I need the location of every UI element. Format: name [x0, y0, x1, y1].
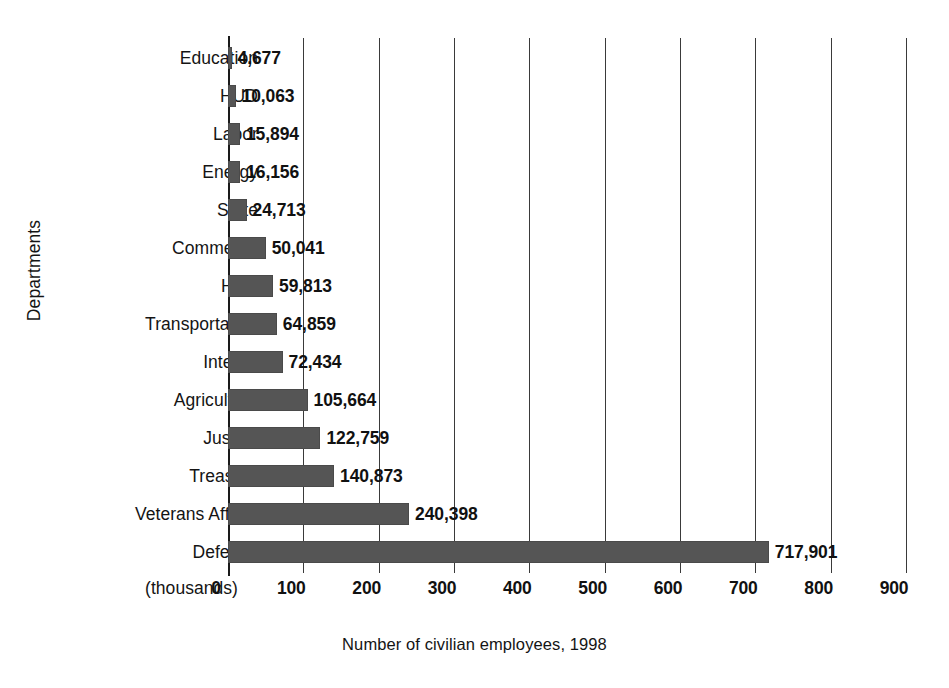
- bar-row: Defense717,901: [0, 533, 949, 571]
- bar: [228, 199, 247, 221]
- bar-row: Justice122,759: [0, 419, 949, 457]
- bar-row: Interior72,434: [0, 343, 949, 381]
- bar: [228, 389, 308, 411]
- bar-value-label: 24,713: [253, 200, 306, 221]
- bar-row: HUD10,063: [0, 77, 949, 115]
- bar: [228, 541, 769, 563]
- x-tick-label: 200: [352, 578, 381, 599]
- bar: [228, 275, 273, 297]
- bar: [228, 237, 266, 259]
- bar-row: Labor15,894: [0, 115, 949, 153]
- bar-row: State24,713: [0, 191, 949, 229]
- bar-row: Treasury140,873: [0, 457, 949, 495]
- bar-value-label: 64,859: [283, 314, 336, 335]
- bar: [228, 47, 232, 69]
- bar-row: HHS59,813: [0, 267, 949, 305]
- bar: [228, 503, 409, 525]
- x-tick-label: 900: [880, 578, 909, 599]
- x-tick-label: 700: [729, 578, 758, 599]
- bar-chart: Departments Education4,677HUD10,063Labor…: [0, 0, 949, 688]
- bar: [228, 351, 283, 373]
- x-axis-title: Number of civilian employees, 1998: [0, 635, 949, 654]
- x-tick-label: 600: [654, 578, 683, 599]
- bar-value-label: 140,873: [340, 466, 403, 487]
- bar-value-label: 105,664: [314, 390, 377, 411]
- x-tick-label: 400: [503, 578, 532, 599]
- bar-row: Education4,677: [0, 39, 949, 77]
- bar-value-label: 72,434: [289, 352, 342, 373]
- bar-value-label: 4,677: [238, 48, 281, 69]
- bar-value-label: 122,759: [326, 428, 389, 449]
- x-axis-ticks: 0100200300400500600700800900: [0, 578, 949, 608]
- bar-value-label: 50,041: [272, 238, 325, 259]
- bar-row: Commerce50,041: [0, 229, 949, 267]
- bar: [228, 85, 236, 107]
- bar-value-label: 59,813: [279, 276, 332, 297]
- bar: [228, 123, 240, 145]
- bar-value-label: 240,398: [415, 504, 478, 525]
- bar: [228, 427, 320, 449]
- bar-row: Agriculture105,664: [0, 381, 949, 419]
- bar-value-label: 717,901: [775, 542, 838, 563]
- x-tick-label: 800: [804, 578, 833, 599]
- x-tick-label: 0: [211, 578, 221, 599]
- bar-value-label: 15,894: [246, 124, 299, 145]
- bar: [228, 161, 240, 183]
- x-tick-label: 300: [428, 578, 457, 599]
- bar-row: Veterans Affairs240,398: [0, 495, 949, 533]
- x-tick-label: 500: [578, 578, 607, 599]
- x-tick-label: 100: [277, 578, 306, 599]
- bar-row: Transportation64,859: [0, 305, 949, 343]
- bar: [228, 313, 277, 335]
- bar-value-label: 10,063: [242, 86, 295, 107]
- bar-value-label: 16,156: [246, 162, 299, 183]
- bar: [228, 465, 334, 487]
- bar-row: Energy16,156: [0, 153, 949, 191]
